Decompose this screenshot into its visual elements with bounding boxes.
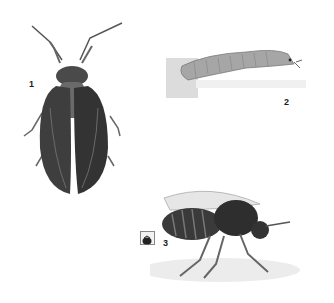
insect-1-illustration xyxy=(20,18,130,198)
panel-label-3: 3 xyxy=(163,238,168,248)
panel-label-1: 1 xyxy=(29,79,34,89)
insect-2-larva-illustration xyxy=(166,40,316,102)
insect-badge-icon xyxy=(140,231,155,245)
insect-3-fly-illustration xyxy=(150,180,310,290)
panel-label-2: 2 xyxy=(284,97,289,107)
